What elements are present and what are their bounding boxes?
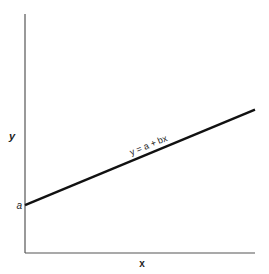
y-axis-label: y bbox=[8, 130, 16, 142]
intercept-label: a bbox=[16, 200, 22, 211]
chart: y x a y = a + bx bbox=[0, 0, 269, 274]
regression-line bbox=[25, 110, 255, 206]
x-axis-label: x bbox=[139, 258, 145, 269]
